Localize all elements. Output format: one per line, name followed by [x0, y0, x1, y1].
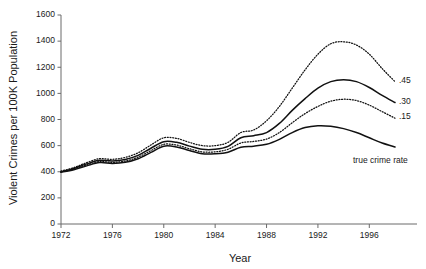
y-tick-label: 1000 [36, 88, 55, 98]
x-tick-label: 1976 [103, 230, 122, 240]
series-layer [61, 42, 395, 173]
series-label-1: .30 [399, 96, 411, 106]
x-tick-label: 1972 [52, 230, 71, 240]
violent-crime-line-chart: 02004006008001000120014001600 1972197619… [0, 0, 426, 269]
series-label-2: .15 [399, 111, 411, 121]
y-tick-label: 0 [50, 218, 55, 228]
y-tick-label: 400 [41, 166, 55, 176]
y-tick-label: 1200 [36, 62, 55, 72]
x-tick-label: 1988 [257, 230, 276, 240]
x-axis-title: Year [229, 252, 252, 264]
y-tick-label: 1400 [36, 35, 55, 45]
y-axis: 02004006008001000120014001600 [36, 9, 61, 228]
x-tick-label: 1984 [206, 230, 225, 240]
y-tick-label: 800 [41, 114, 55, 124]
series-label-0: .45 [399, 75, 411, 85]
y-tick-label: 1600 [36, 9, 55, 19]
y-tick-label: 600 [41, 140, 55, 150]
x-tick-label: 1996 [360, 230, 379, 240]
y-tick-label: 200 [41, 192, 55, 202]
x-axis: 1972197619801984198819921996 [52, 224, 417, 240]
y-axis-title: Violent Crimes per 100K Population [7, 31, 19, 205]
x-tick-label: 1992 [308, 230, 327, 240]
series-line-1 [61, 80, 395, 172]
chart-canvas: 02004006008001000120014001600 1972197619… [0, 0, 426, 269]
x-tick-label: 1980 [154, 230, 173, 240]
series-label-layer: .45.30.15true crime rate [353, 75, 411, 165]
series-label-3: true crime rate [353, 155, 408, 165]
